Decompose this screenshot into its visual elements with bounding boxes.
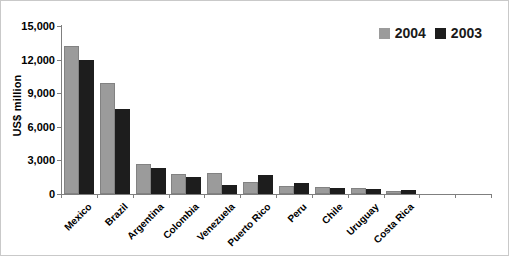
bar-uruguay-2003 bbox=[366, 189, 381, 194]
bar-mexico-2003 bbox=[79, 60, 94, 194]
bar-puerto-rico-2003 bbox=[258, 175, 273, 194]
x-category-label: Brazil bbox=[102, 201, 129, 228]
x-tickmark bbox=[419, 194, 420, 198]
bar-costa-rica-2003 bbox=[401, 190, 416, 194]
x-tickmark bbox=[61, 194, 62, 198]
bar-argentina-2004 bbox=[136, 164, 151, 194]
x-tickmark bbox=[312, 194, 313, 198]
bar-uruguay-2004 bbox=[351, 188, 366, 194]
x-tickmark bbox=[384, 194, 385, 198]
x-tickmark bbox=[455, 194, 456, 198]
x-tickmark bbox=[276, 194, 277, 198]
y-tick-label: 0 bbox=[9, 189, 55, 200]
y-tick-label: 3,000 bbox=[9, 155, 55, 166]
legend-swatch-2003 bbox=[435, 28, 446, 39]
x-tickmark bbox=[240, 194, 241, 198]
legend-item-2003: 2003 bbox=[435, 25, 482, 41]
y-tickmark bbox=[57, 127, 61, 128]
x-category-label: Mexico bbox=[62, 201, 94, 233]
bar-brazil-2003 bbox=[115, 109, 130, 194]
x-tickmark bbox=[169, 194, 170, 198]
legend-label-2003: 2003 bbox=[451, 25, 482, 41]
bar-venezuela-2003 bbox=[222, 185, 237, 194]
x-tickmark bbox=[204, 194, 205, 198]
y-tick-label: 9,000 bbox=[9, 88, 55, 99]
bar-chile-2003 bbox=[330, 188, 345, 194]
bar-peru-2003 bbox=[294, 183, 309, 194]
y-tickmark bbox=[57, 26, 61, 27]
bar-peru-2004 bbox=[279, 186, 294, 194]
y-tick-label: 15,000 bbox=[9, 21, 55, 32]
y-tick-label: 6,000 bbox=[9, 122, 55, 133]
y-axis-title: US$ million bbox=[11, 64, 24, 148]
x-tickmark bbox=[491, 194, 492, 198]
bar-puerto-rico-2004 bbox=[243, 182, 258, 194]
y-axis-line bbox=[61, 25, 62, 194]
y-tickmark bbox=[57, 93, 61, 94]
x-tickmark bbox=[97, 194, 98, 198]
legend-label-2004: 2004 bbox=[395, 25, 426, 41]
bar-costa-rica-2004 bbox=[386, 191, 401, 194]
bar-colombia-2003 bbox=[186, 177, 201, 194]
bar-mexico-2004 bbox=[64, 46, 79, 194]
x-category-label: Chile bbox=[319, 201, 344, 226]
y-tick-label: 12,000 bbox=[9, 55, 55, 66]
x-category-label: Uruguay bbox=[344, 201, 380, 237]
legend-swatch-2004 bbox=[379, 28, 390, 39]
legend-item-2004: 2004 bbox=[379, 25, 426, 41]
x-tickmark bbox=[348, 194, 349, 198]
bar-brazil-2004 bbox=[100, 83, 115, 194]
bar-argentina-2003 bbox=[151, 168, 166, 194]
chart-legend: 2004 2003 bbox=[379, 25, 482, 41]
x-category-label: Peru bbox=[285, 201, 309, 225]
y-tickmark bbox=[57, 60, 61, 61]
x-tickmark bbox=[133, 194, 134, 198]
y-tickmark bbox=[57, 160, 61, 161]
bar-colombia-2004 bbox=[171, 174, 186, 194]
bar-venezuela-2004 bbox=[207, 173, 222, 194]
bar-chart-figure: US$ million 2004 2003 15,00012,0009,0006… bbox=[0, 0, 509, 256]
x-category-label: Argentina bbox=[125, 201, 166, 242]
bar-chile-2004 bbox=[315, 187, 330, 194]
